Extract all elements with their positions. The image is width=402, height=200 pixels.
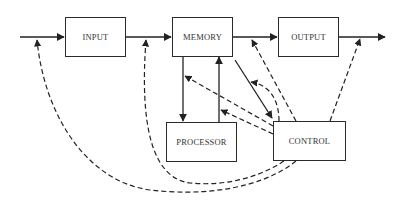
control-signal-to-input-line bbox=[37, 40, 296, 192]
processor-box: PROCESSOR bbox=[166, 122, 237, 162]
memory-box: MEMORY bbox=[172, 17, 233, 57]
output-label: OUTPUT bbox=[291, 32, 326, 42]
output-box: OUTPUT bbox=[278, 17, 339, 57]
control-box: CONTROL bbox=[273, 121, 346, 161]
control-label: CONTROL bbox=[289, 136, 331, 146]
input-box: INPUT bbox=[65, 17, 126, 57]
input-label: INPUT bbox=[82, 32, 108, 42]
processor-label: PROCESSOR bbox=[176, 137, 226, 147]
diagram-canvas: INPUT MEMORY OUTPUT PROCESSOR CONTROL bbox=[0, 0, 402, 200]
control-signal-to-memory-processor-line bbox=[185, 76, 273, 126]
control-signal-to-memory-control-line bbox=[251, 82, 279, 121]
memory-label: MEMORY bbox=[183, 32, 222, 42]
